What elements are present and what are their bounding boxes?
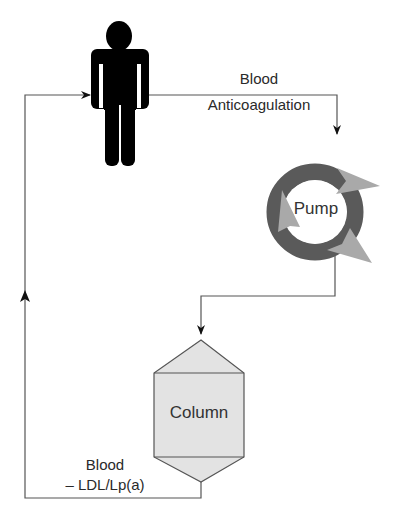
- edge-label-blood-bottom: Blood: [55, 456, 155, 474]
- diagram-canvas: [0, 0, 404, 510]
- edge-label-blood-top: Blood: [214, 70, 304, 88]
- pump-label: Pump: [276, 200, 356, 218]
- person-icon: [91, 21, 149, 166]
- flow-line-pump-to-column: [201, 256, 335, 334]
- edge-label-ldl-lpa: – LDL/Lp(a): [40, 476, 170, 494]
- edge-label-anticoagulation: Anticoagulation: [174, 96, 344, 114]
- column-label: Column: [154, 404, 244, 422]
